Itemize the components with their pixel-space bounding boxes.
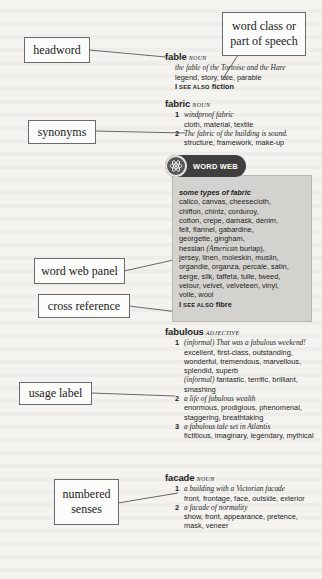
see-also-label: SEE ALSO (183, 302, 214, 308)
part-of-speech: NOUN (197, 476, 215, 482)
callout-headword: headword (24, 37, 90, 63)
sense-number: 2 (175, 394, 179, 403)
entry-facade: facade NOUN 1 a building with a Victoria… (165, 473, 315, 531)
synonyms: legend, story, tale, parable (165, 73, 315, 82)
example: the fable of the Tortoise and the Hare (165, 63, 315, 72)
example: a life of fabulous wealth (184, 394, 315, 403)
word-web-line: chiffon, chintz, corduroy, (179, 207, 305, 216)
callout-word-class-text: word class or part of speech (223, 19, 305, 49)
callout-synonyms: synonyms (28, 120, 96, 144)
callout-synonyms-text: synonyms (38, 125, 87, 140)
word-web-line: organdie, organza, percale, satin, (179, 262, 305, 271)
word-web-line: hessian (American burlap), (179, 244, 305, 253)
sense-2: 2 a facade of normality show, front, app… (165, 503, 315, 531)
synonyms: front, frontage, face, outside, exterior (184, 494, 315, 503)
region-label: (American (207, 244, 238, 253)
word-web-badge: WORD WEB (165, 155, 246, 177)
callout-cross-reference: cross reference (38, 294, 130, 318)
word-web-term: hessian (179, 244, 204, 253)
example: a facade of normality (184, 503, 315, 512)
sense-number: 3 (175, 422, 179, 431)
example: (informal) That was a fabulous weekend! (184, 338, 315, 347)
sense-3: 3 a fabulous tale set in Atlantis fictit… (165, 422, 315, 441)
word-web-line: calico, canvas, cheesecloth, (179, 197, 305, 206)
cross-reference: ISEE ALSO fibre (179, 300, 305, 310)
synonyms: cloth, material, textile (184, 120, 315, 129)
sense-number: 1 (175, 338, 179, 347)
entry-fabric: fabric NOUN 1 windproof fabric cloth, ma… (165, 99, 315, 147)
word-web-term: burlap), (240, 244, 265, 253)
headword: fabric (165, 98, 190, 109)
word-web-line: jersey, linen, moleskin, muslin, (179, 253, 305, 262)
cross-reference: ISEE ALSO fiction (165, 82, 315, 92)
see-also-marker: I (175, 82, 177, 91)
example: a fabulous tale set in Atlantis (184, 422, 315, 431)
usage-label: (informal) (184, 338, 214, 347)
callout-usage-label-text: usage label (29, 386, 83, 401)
sense-1: 1 a building with a Victorian facade fro… (165, 484, 315, 503)
word-web-line: serge, silk, taffeta, tulle, tweed, (179, 272, 305, 281)
see-also-label: SEE ALSO (179, 84, 210, 90)
callout-word-web-panel-text: word web panel (41, 264, 118, 279)
word-web-panel: some types of fabric calico, canvas, che… (172, 175, 312, 322)
see-also-link[interactable]: fiction (212, 82, 234, 91)
synonyms: enormous, prodigious, phenomenal, stagge… (184, 403, 315, 422)
example: The fabric of the building is sound. (184, 129, 315, 138)
part-of-speech: ADJECTIVE (206, 330, 240, 336)
word-web-title: some types of fabric (179, 188, 305, 197)
atom-icon (165, 155, 187, 177)
entry-fabulous: fabulous ADJECTIVE 1 (informal) That was… (165, 327, 315, 441)
example-text: That was a fabulous weekend! (216, 338, 306, 347)
synonyms: fictitious, imaginary, legendary, mythic… (184, 431, 315, 440)
headword: fable (165, 51, 187, 62)
sense-number: 1 (175, 484, 179, 493)
usage-label: (informal) (184, 375, 214, 384)
part-of-speech: NOUN (189, 55, 207, 61)
callout-cross-reference-text: cross reference (48, 299, 120, 314)
synonyms: structure, framework, make-up (184, 138, 315, 147)
part-of-speech: NOUN (192, 102, 210, 108)
synonyms: excellent, first-class, outstanding, won… (184, 348, 315, 376)
callout-numbered-senses-text: numbered senses (55, 487, 118, 517)
callout-numbered-senses: numbered senses (54, 479, 119, 525)
entry-fable: fable NOUN the fable of the Tortoise and… (165, 52, 315, 92)
callout-word-class: word class or part of speech (222, 12, 306, 56)
sense-number: 1 (175, 110, 179, 119)
callout-word-web-panel: word web panel (34, 258, 125, 284)
see-also-link[interactable]: fibre (216, 300, 232, 309)
word-web-line: velour, velvet, velveteen, vinyl, (179, 281, 305, 290)
sense-number: 2 (175, 129, 179, 138)
sense-1: 1 (informal) That was a fabulous weekend… (165, 338, 315, 394)
synonyms-informal: (informal) fantastic, terrific, brillian… (184, 375, 315, 394)
example: a building with a Victorian facade (184, 484, 315, 493)
synonyms: show, front, appearance, pretence, mask,… (184, 512, 315, 531)
word-web-badge-label: WORD WEB (193, 162, 238, 171)
word-web-line: georgette, gingham, (179, 234, 305, 243)
example: windproof fabric (184, 110, 315, 119)
callout-usage-label: usage label (19, 382, 92, 405)
word-web-line: felt, flannel, gabardine, (179, 225, 305, 234)
headword: facade (165, 472, 195, 483)
word-web-line: voile, wool (179, 290, 305, 299)
callout-headword-text: headword (33, 43, 80, 58)
see-also-marker: I (179, 300, 181, 309)
sense-1: 1 windproof fabric cloth, material, text… (165, 110, 315, 129)
sense-2: 2 The fabric of the building is sound. s… (165, 129, 315, 148)
word-web-line: cotton, crepe, damask, denim, (179, 216, 305, 225)
sense-number: 2 (175, 503, 179, 512)
headword: fabulous (165, 326, 204, 337)
sense-2: 2 a life of fabulous wealth enormous, pr… (165, 394, 315, 422)
